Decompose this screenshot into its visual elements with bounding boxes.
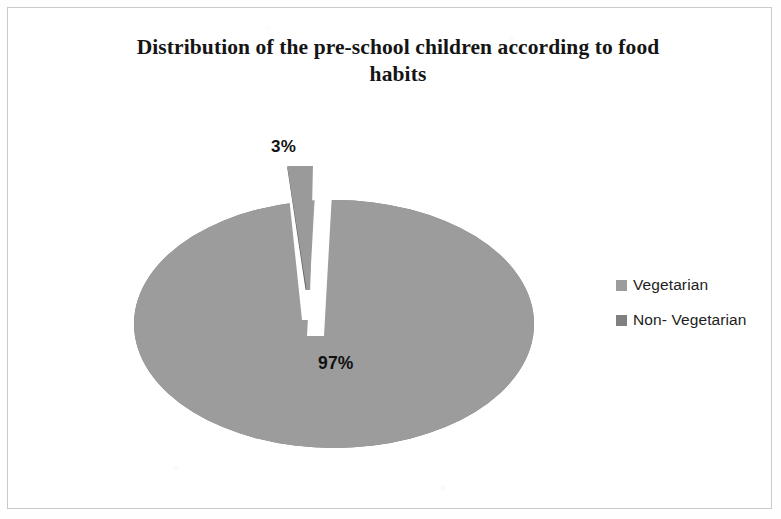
data-label-vegetarian: 97% <box>318 353 354 374</box>
legend-swatch-icon-non-vegetarian <box>616 315 627 326</box>
pie-slice-non-vegetarian-top <box>278 166 324 290</box>
chart-title-line-1: Distribution of the pre-school children … <box>137 35 660 59</box>
chart-title: Distribution of the pre-school children … <box>78 34 718 88</box>
chart-frame: Distribution of the pre-school children … <box>7 7 772 509</box>
data-label-non-vegetarian: 3% <box>271 137 296 157</box>
pie-slice-vegetarian-top <box>134 200 534 448</box>
legend-item-non-vegetarian: Non- Vegetarian <box>616 311 781 329</box>
legend-label-vegetarian: Vegetarian <box>633 276 708 294</box>
pie-slice-non-vegetarian <box>278 166 324 290</box>
legend-swatch-icon-vegetarian <box>616 280 627 291</box>
chart-title-line-2: habits <box>370 62 427 86</box>
chart-legend: Vegetarian Non- Vegetarian <box>616 276 781 346</box>
legend-label-non-vegetarian: Non- Vegetarian <box>633 311 747 329</box>
pie-chart-graphic <box>126 158 546 458</box>
legend-item-vegetarian: Vegetarian <box>616 276 781 294</box>
